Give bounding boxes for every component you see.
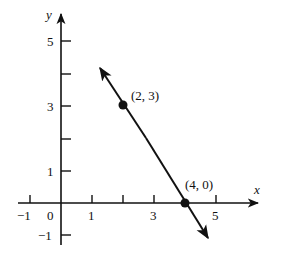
y-ticks [61, 41, 71, 235]
x-tick-label-neg1: −1 [17, 208, 31, 223]
x-tick-label-1: 1 [88, 208, 95, 223]
point-2-3 [119, 101, 128, 110]
x-tick-label-5: 5 [212, 208, 219, 223]
y-tick-label-1: 1 [47, 164, 54, 179]
x-tick-label-3: 3 [150, 208, 157, 223]
point-4-0 [181, 199, 190, 208]
y-tick-label-neg1: −1 [38, 228, 52, 243]
y-tick-label-3: 3 [47, 99, 54, 114]
point-label-4-0: (4, 0) [185, 177, 213, 192]
y-tick-label-5: 5 [47, 34, 54, 49]
y-axis-label: y [44, 7, 52, 22]
coordinate-plane: y x −1 0 1 3 5 5 3 1 −1 (2, 3) (4, 0) [0, 0, 281, 274]
point-label-2-3: (2, 3) [131, 88, 159, 103]
x-tick-label-0: 0 [47, 208, 54, 223]
x-axis-label: x [253, 182, 260, 197]
